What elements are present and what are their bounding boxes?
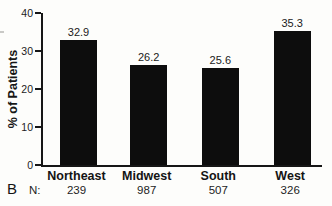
y-axis-tick: 0 [0,158,41,172]
y-axis-tick: 20 [0,82,41,96]
tick-mark [35,164,41,166]
bar-west [274,31,311,165]
plot-area: 0 10 20 30 40 32.9 26.2 25.6 [41,13,322,167]
bar-group-midwest: 26.2 [130,65,167,165]
y-axis-tick-label: 10 [21,122,33,133]
category-label-south: South [201,169,236,183]
panel-label: B [7,180,17,197]
bar-value-label: 32.9 [68,26,89,38]
bar-group-south: 25.6 [202,68,239,165]
bar-south [202,68,239,165]
category-label-west: West [275,169,305,183]
tick-mark [35,88,41,90]
n-value-west: 326 [281,184,300,196]
bar-chart-figure: % of Patients 0 10 20 30 40 32.9 26.2 [0,0,332,206]
n-value-northeast: 239 [67,184,86,196]
y-axis-tick: 10 [0,120,41,134]
bar-northeast [60,40,97,165]
bar-value-label: 25.6 [210,54,231,66]
bar-group-west: 35.3 [274,31,311,165]
bar-value-label: 26.2 [138,51,159,63]
tick-mark [35,126,41,128]
bar-value-label: 35.3 [281,17,302,29]
y-axis-tick-label: 20 [21,84,33,95]
n-value-south: 507 [209,184,228,196]
y-axis-tick: 40 [0,6,41,20]
y-axis-tick-label: 0 [27,160,33,171]
y-axis-tick: 30 [0,44,41,58]
y-axis-tick-label: 40 [21,8,33,19]
n-value-midwest: 987 [137,184,156,196]
n-row-label: N: [29,184,41,196]
category-label-midwest: Midwest [122,169,171,183]
bar-group-northeast: 32.9 [60,40,97,165]
tick-mark [35,50,41,52]
scan-artifact-mark [0,31,4,33]
tick-mark [35,12,41,14]
category-label-northeast: Northeast [47,169,105,183]
bar-midwest [130,65,167,165]
y-axis-tick-label: 30 [21,46,33,57]
